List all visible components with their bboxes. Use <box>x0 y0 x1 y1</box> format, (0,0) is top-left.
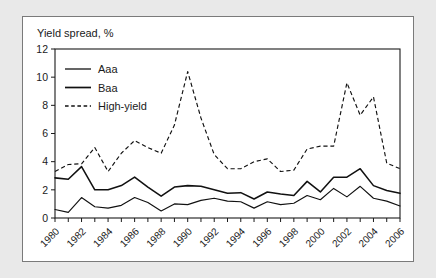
x-axis-ticks: 1980198219841986198819901992199419961998… <box>38 218 407 249</box>
x-tick-label-2002: 2002 <box>330 225 354 249</box>
y-tick-label-6: 6 <box>42 127 48 139</box>
x-tick-label-1996: 1996 <box>250 225 274 249</box>
x-tick-label-1998: 1998 <box>277 225 301 249</box>
x-tick-label-1982: 1982 <box>64 225 88 249</box>
chart-legend: AaaBaaHigh-yield <box>65 63 147 112</box>
x-tick-label-2006: 2006 <box>383 225 407 249</box>
line-chart: Yield spread, % 024681012 19801982198419… <box>23 17 415 263</box>
y-tick-label-8: 8 <box>42 99 48 111</box>
x-tick-label-2004: 2004 <box>356 225 380 249</box>
x-tick-label-1984: 1984 <box>91 225 115 249</box>
x-tick-label-1980: 1980 <box>38 225 62 249</box>
x-tick-label-1990: 1990 <box>171 225 195 249</box>
figure-root: Yield spread, % 024681012 19801982198419… <box>0 0 436 278</box>
y-tick-label-2: 2 <box>42 184 48 196</box>
x-tick-label-1986: 1986 <box>118 225 142 249</box>
chart-title: Yield spread, % <box>37 27 114 39</box>
y-tick-label-12: 12 <box>36 43 48 55</box>
chart-title-group: Yield spread, % <box>37 27 114 39</box>
chart-panel: Yield spread, % 024681012 19801982198419… <box>22 16 414 262</box>
y-tick-label-4: 4 <box>42 155 48 167</box>
y-axis-ticks: 024681012 <box>36 43 55 224</box>
x-tick-label-1994: 1994 <box>224 225 248 249</box>
y-tick-label-0: 0 <box>42 212 48 224</box>
x-tick-label-2000: 2000 <box>303 225 327 249</box>
x-tick-label-1988: 1988 <box>144 225 168 249</box>
x-tick-label-1992: 1992 <box>197 225 221 249</box>
series-line-baa <box>55 167 400 199</box>
legend-label-baa: Baa <box>98 82 118 94</box>
legend-label-aaa: Aaa <box>98 63 118 75</box>
y-tick-label-10: 10 <box>36 71 48 83</box>
legend-label-high-yield: High-yield <box>98 100 147 112</box>
